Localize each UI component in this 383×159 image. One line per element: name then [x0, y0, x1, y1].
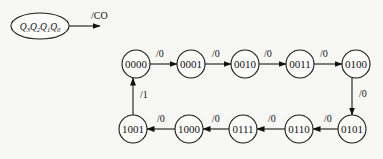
state-label: 1001: [122, 123, 144, 135]
state-node-1001: 1001: [119, 115, 147, 143]
state-label: 0111: [232, 123, 253, 135]
state-label: 0101: [341, 123, 363, 135]
transition-label: /0: [320, 48, 328, 59]
state-label: 0000: [125, 58, 148, 70]
state-label: 0100: [345, 58, 368, 70]
transition-label: /0: [264, 48, 272, 59]
state-node-0110: 0110: [285, 115, 313, 143]
state-label: 1000: [178, 123, 201, 135]
legend: Q3Q2Q1Q0 /CO: [11, 10, 108, 39]
state-node-0001: 0001: [177, 50, 205, 78]
legend-output-label: /CO: [91, 10, 108, 21]
state-node-0100: 0100: [342, 50, 370, 78]
transition-label: /0: [268, 113, 276, 124]
transition-label: /0: [156, 48, 164, 59]
state-node-0010: 0010: [231, 50, 259, 78]
state-diagram: Q3Q2Q1Q0 /CO /0 /0 /0 /0 /0 /0 /0 /0 /0 …: [0, 0, 383, 159]
state-node-0000: 0000: [122, 50, 150, 78]
transition-label: /0: [212, 113, 220, 124]
state-node-0011: 0011: [286, 50, 314, 78]
transition-label: /1: [140, 89, 148, 100]
transition-label: /0: [324, 113, 332, 124]
transition-label: /0: [212, 48, 220, 59]
legend-state-label: Q3Q2Q1Q0: [20, 22, 61, 33]
state-node-1000: 1000: [175, 115, 203, 143]
state-label: 0110: [288, 123, 310, 135]
transition-label: /0: [359, 88, 367, 99]
state-label: 0010: [234, 58, 257, 70]
state-node-0101: 0101: [338, 115, 366, 143]
state-node-0111: 0111: [229, 115, 257, 143]
transition-label: /0: [157, 113, 165, 124]
state-label: 0011: [289, 58, 311, 70]
state-label: 0001: [180, 58, 202, 70]
